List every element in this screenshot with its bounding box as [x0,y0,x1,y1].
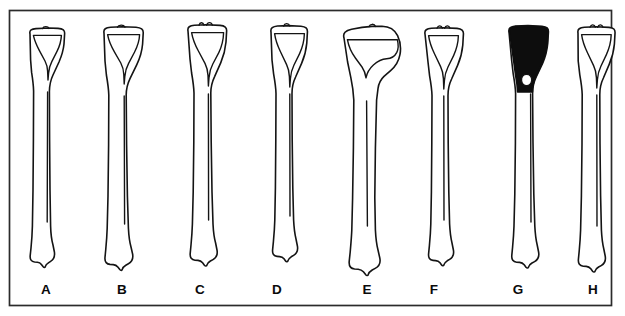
figure-container: A B C D E F G H [0,0,625,316]
panel-label-a: A [41,282,51,297]
panel-label-g: G [513,282,524,297]
bone-shaft-crest-e [367,101,368,226]
panel-label-c: C [195,282,205,297]
bone-light-spot-g [522,74,532,85]
panel-label-b: B [117,282,127,297]
panel-label-d: D [272,282,282,297]
panel-label-h: H [588,282,598,297]
panel-label-f: F [430,282,438,297]
bone-figure-svg: A B C D E F G H [0,0,625,316]
panel-label-e: E [362,282,371,297]
